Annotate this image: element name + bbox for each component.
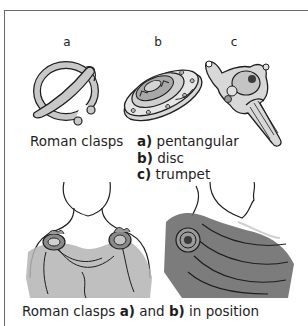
label-c: c <box>224 36 244 48</box>
label-a: a <box>57 36 77 48</box>
caption-item-a: a) pentangular <box>137 133 239 150</box>
bust-front-illustration <box>22 182 158 302</box>
caption-bottom: Roman clasps a) and b) in position <box>22 303 259 319</box>
caption-list: a) pentangular b) disc c) trumpet <box>137 133 239 183</box>
disc-clasp-on-bust <box>176 228 200 252</box>
bust-side-illustration <box>158 182 304 302</box>
caption-title: Roman clasps <box>30 133 123 149</box>
penannular-clasp-icon <box>28 55 108 130</box>
disc-clasp-icon <box>116 57 206 127</box>
label-b: b <box>148 36 168 48</box>
caption-item-b: b) disc <box>137 150 239 167</box>
caption-item-c: c) trumpet <box>137 166 239 183</box>
clasp-right-on-bust <box>109 227 131 249</box>
clasp-left-on-bust <box>43 230 65 250</box>
